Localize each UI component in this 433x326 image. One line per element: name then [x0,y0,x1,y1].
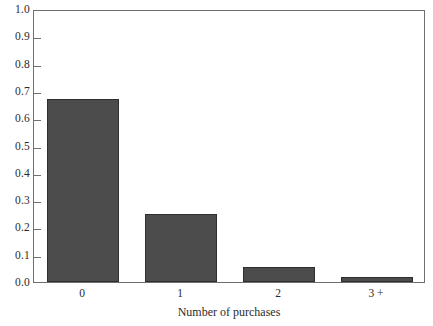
y-axis-tick-mark [34,257,41,258]
y-axis-tick-label: 0.4 [2,168,30,180]
y-axis-tick-label: 0.1 [2,250,30,262]
bar-category-1 [145,214,216,282]
bar-chart: 1.0 0.9 0.8 0.7 0.6 0.5 0.4 0.3 0.2 0.1 … [0,0,433,326]
x-axis-tick-label: 1 [177,286,183,300]
y-axis-tick-mark [34,175,41,176]
plot-area [34,11,424,282]
y-axis-tick-label: 0.7 [2,86,30,98]
y-axis-tick-mark [34,229,41,230]
y-axis-tick-mark [34,120,41,121]
y-axis-tick-labels: 1.0 0.9 0.8 0.7 0.6 0.5 0.4 0.3 0.2 0.1 … [0,10,30,283]
x-axis-tick-labels: 0 1 2 3 + [33,286,425,302]
bar-category-3 [341,277,412,282]
y-axis-tick-label: 0.5 [2,141,30,153]
y-axis-tick-mark [34,38,41,39]
y-axis-tick-mark [34,148,41,149]
y-axis-tick-mark [34,202,41,203]
bar-category-0 [47,99,118,282]
plot-frame [33,10,425,283]
x-axis-tick-label: 0 [79,286,85,300]
y-axis-tick-label: 0.2 [2,222,30,234]
x-axis-tick-label: 2 [275,286,281,300]
y-axis-tick-mark [34,93,41,94]
y-axis-tick-label: 0.8 [2,59,30,71]
x-axis-title: Number of purchases [33,305,425,319]
y-axis-tick-mark [34,66,41,67]
y-axis-tick-label: 0.3 [2,195,30,207]
y-axis-tick-label: 0.0 [2,277,30,289]
x-axis-tick-label: 3 + [368,286,383,300]
bar-category-2 [243,267,314,282]
y-axis-tick-label: 0.9 [2,31,30,43]
y-axis-tick-label: 0.6 [2,113,30,125]
y-axis-tick-label: 1.0 [2,4,30,16]
